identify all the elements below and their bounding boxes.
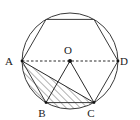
label-point-o: O <box>64 44 72 56</box>
vertex-dot-a <box>21 60 24 63</box>
vertex-dot-c <box>93 101 96 104</box>
geometry-figure: A O D B C <box>0 0 140 120</box>
vertex-dot-b <box>45 101 48 104</box>
figure-canvas: A O D B C <box>0 0 140 120</box>
label-point-b: B <box>38 107 45 119</box>
center-point-dot <box>68 59 72 63</box>
vertex-dot-d <box>117 60 120 63</box>
shaded-circular-segment <box>22 61 94 109</box>
label-point-d: D <box>120 55 128 67</box>
label-point-c: C <box>87 107 94 119</box>
label-point-a: A <box>5 55 13 67</box>
